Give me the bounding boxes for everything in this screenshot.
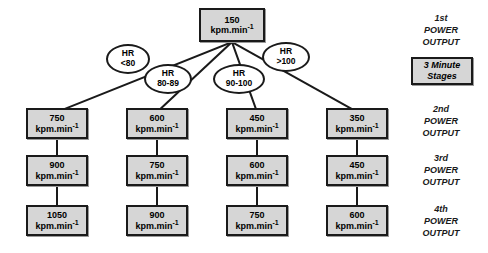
node-col3-stage4[interactable]: 750 kpm.min-1 (226, 205, 288, 236)
stage-label-4th-line3: OUTPUT (398, 227, 484, 239)
node-col4-stage4[interactable]: 600 kpm.min-1 (326, 205, 388, 236)
node-col1-stage3-unit: kpm.min-1 (35, 171, 78, 181)
node-col4-stage3[interactable]: 450 kpm.min-1 (326, 155, 388, 186)
three-minute-stages-line2: Stages (427, 71, 457, 82)
stage-label-2nd-line2: POWER (398, 115, 484, 127)
stage-label-4th: 4th POWER OUTPUT (398, 203, 484, 239)
stage-label-1st-line2: POWER (398, 24, 484, 36)
stage-label-3rd-line2: POWER (398, 164, 484, 176)
node-col3-stage3-unit: kpm.min-1 (235, 171, 278, 181)
stage-label-3rd-line3: OUTPUT (398, 176, 484, 188)
stage-label-2nd-ordinal: 2nd (398, 103, 484, 115)
decision-4-line2: >100 (276, 57, 295, 67)
decision-hr-under-80[interactable]: HR <80 (106, 44, 150, 74)
decision-3-line2: 90-100 (226, 79, 252, 89)
node-col2-stage2-value: 600 (149, 113, 164, 123)
stage-label-1st-line3: OUTPUT (398, 36, 484, 48)
node-col1-stage3[interactable]: 900 kpm.min-1 (26, 155, 88, 186)
stage-label-3rd: 3rd POWER OUTPUT (398, 152, 484, 188)
node-col1-stage2-unit: kpm.min-1 (35, 124, 78, 134)
node-col2-stage4-unit: kpm.min-1 (135, 221, 178, 231)
node-col3-stage2-unit: kpm.min-1 (235, 124, 278, 134)
node-col4-stage3-unit: kpm.min-1 (335, 171, 378, 181)
node-root-unit: kpm.min-1 (210, 25, 253, 35)
three-minute-stages-box[interactable]: 3 Minute Stages (411, 57, 473, 85)
node-col4-stage2[interactable]: 350 kpm.min-1 (326, 108, 388, 139)
node-col4-stage2-unit: kpm.min-1 (335, 124, 378, 134)
node-col4-stage2-value: 350 (349, 113, 364, 123)
node-col3-stage3[interactable]: 600 kpm.min-1 (226, 155, 288, 186)
node-col1-stage4-value: 1050 (47, 210, 67, 220)
node-col2-stage2[interactable]: 600 kpm.min-1 (126, 108, 188, 139)
decision-hr-over-100[interactable]: HR >100 (262, 42, 310, 72)
node-col2-stage3-unit: kpm.min-1 (135, 171, 178, 181)
node-col2-stage4[interactable]: 900 kpm.min-1 (126, 205, 188, 236)
node-col3-stage2[interactable]: 450 kpm.min-1 (226, 108, 288, 139)
node-col2-stage3-value: 750 (149, 160, 164, 170)
decision-1-line2: <80 (121, 59, 135, 69)
node-col3-stage4-unit: kpm.min-1 (235, 221, 278, 231)
node-col1-stage4[interactable]: 1050 kpm.min-1 (26, 205, 88, 236)
node-col1-stage2-value: 750 (49, 113, 64, 123)
stage-label-2nd: 2nd POWER OUTPUT (398, 103, 484, 139)
node-col1-stage4-unit: kpm.min-1 (35, 221, 78, 231)
node-col2-stage3[interactable]: 750 kpm.min-1 (126, 155, 188, 186)
node-col3-stage2-value: 450 (249, 113, 264, 123)
three-minute-stages-line1: 3 Minute (424, 60, 461, 71)
node-root-value: 150 (224, 15, 239, 25)
decision-hr-90-100[interactable]: HR 90-100 (213, 64, 265, 94)
diagram-canvas: 150 kpm.min-1 HR <80 HR 80-89 HR 90-100 … (0, 0, 488, 253)
stage-label-2nd-line3: OUTPUT (398, 127, 484, 139)
node-col2-stage4-value: 900 (149, 210, 164, 220)
node-col3-stage3-value: 600 (249, 160, 264, 170)
stage-label-3rd-ordinal: 3rd (398, 152, 484, 164)
node-col4-stage3-value: 450 (349, 160, 364, 170)
node-root-power[interactable]: 150 kpm.min-1 (199, 8, 265, 42)
node-col3-stage4-value: 750 (249, 210, 264, 220)
decision-2-line2: 80-89 (157, 79, 179, 89)
node-col1-stage3-value: 900 (49, 160, 64, 170)
node-col1-stage2[interactable]: 750 kpm.min-1 (26, 108, 88, 139)
stage-label-1st-ordinal: 1st (398, 12, 484, 24)
decision-hr-80-89[interactable]: HR 80-89 (144, 64, 192, 94)
stage-label-4th-line2: POWER (398, 215, 484, 227)
stage-label-1st: 1st POWER OUTPUT (398, 12, 484, 48)
node-col2-stage2-unit: kpm.min-1 (135, 124, 178, 134)
node-col4-stage4-unit: kpm.min-1 (335, 221, 378, 231)
node-col4-stage4-value: 600 (349, 210, 364, 220)
stage-label-4th-ordinal: 4th (398, 203, 484, 215)
